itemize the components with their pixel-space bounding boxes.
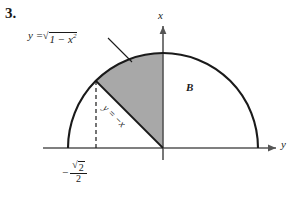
tick-fraction: √2 2 bbox=[70, 160, 87, 185]
tick-denominator: 2 bbox=[74, 174, 83, 185]
shaded-region-b bbox=[96, 53, 163, 148]
tick-numerator: √2 bbox=[70, 160, 87, 173]
vertical-axis-arrow bbox=[160, 26, 167, 34]
tick-radicand: 2 bbox=[78, 161, 85, 173]
figure-container: 3. y =√1 − x2 x y B y = −x − √2 2 bbox=[0, 0, 300, 200]
horizontal-axis-arrow bbox=[268, 145, 276, 152]
radical-group: √1 − x2 bbox=[43, 31, 77, 45]
curve-equation-lhs: y = bbox=[28, 29, 43, 41]
problem-number: 3. bbox=[5, 6, 16, 21]
tick-label-negative-root-two-over-two: − √2 2 bbox=[62, 160, 87, 185]
radicand: 1 − x2 bbox=[49, 32, 78, 45]
axis-label-vertical: x bbox=[158, 10, 163, 21]
radicand-exponent: 2 bbox=[73, 32, 77, 40]
region-label-b: B bbox=[186, 82, 193, 93]
leader-line bbox=[108, 38, 132, 62]
tick-radical-group: √2 bbox=[72, 160, 85, 173]
axis-label-horizontal: y bbox=[281, 139, 286, 150]
radicand-body: 1 − x bbox=[50, 33, 73, 45]
tick-minus-sign: − bbox=[62, 167, 68, 178]
curve-equation-label: y =√1 − x2 bbox=[28, 30, 77, 45]
